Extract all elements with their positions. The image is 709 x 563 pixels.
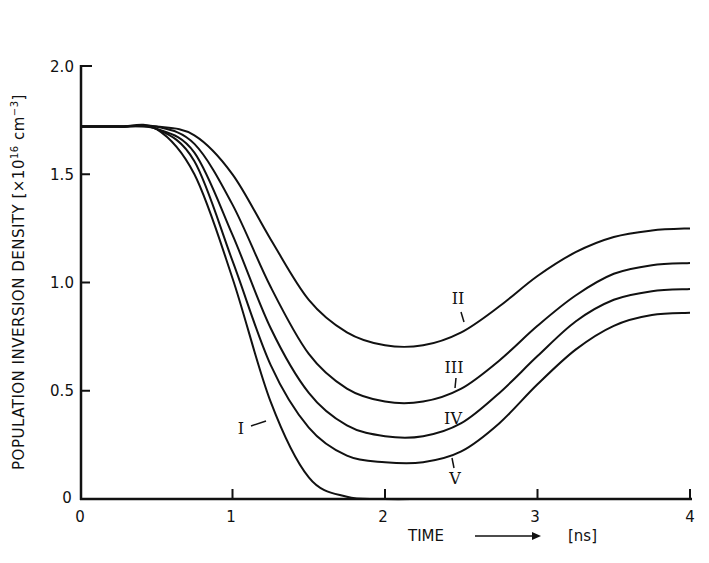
curve-label-V: V <box>449 469 461 488</box>
x-tick-label-3: 3 <box>530 508 540 526</box>
curve-I <box>80 125 690 499</box>
curves <box>80 125 690 499</box>
curve-III-leader <box>455 378 456 388</box>
curve-V-leader <box>452 458 454 468</box>
plot-area <box>0 0 709 563</box>
curve-label-III: III <box>445 358 464 377</box>
curve-I-leader <box>251 421 266 426</box>
y-axis-ticks <box>81 66 92 391</box>
curve-V <box>80 126 690 464</box>
x-tick-label-1: 1 <box>226 508 236 526</box>
curve-II <box>80 126 690 347</box>
x-tick-label-2: 2 <box>378 508 388 526</box>
x-axis-unit: [ns] <box>568 527 597 545</box>
curve-label-II: II <box>452 289 465 308</box>
x-axis-label: TIME <box>408 527 444 545</box>
time-arrow-head <box>532 532 541 540</box>
x-tick-label-0: 0 <box>75 508 85 526</box>
y-tick-label-0: 0 <box>62 489 72 507</box>
curve-II-leader <box>461 312 464 322</box>
y-tick-label-1.0: 1.0 <box>50 274 74 292</box>
curve-label-I: I <box>238 419 244 438</box>
curve-label-IV: IV <box>444 409 462 428</box>
y-tick-label-1.5: 1.5 <box>50 166 74 184</box>
x-tick-label-4: 4 <box>685 508 695 526</box>
curve-III <box>80 125 690 403</box>
x-axis-ticks <box>233 489 691 499</box>
y-tick-label-0.5: 0.5 <box>50 382 74 400</box>
y-tick-label-2.0: 2.0 <box>50 58 74 76</box>
